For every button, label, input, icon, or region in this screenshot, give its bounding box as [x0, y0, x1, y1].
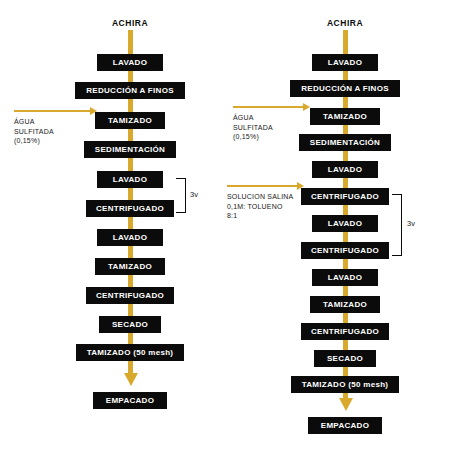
input-annotation-line2: SULFITADA [14, 127, 54, 137]
repeat-bracket [392, 194, 402, 256]
left-flow-arrowhead [124, 373, 138, 386]
process-node[interactable]: TAMIZADO [95, 258, 165, 275]
input-arrow-head [303, 103, 310, 111]
process-node[interactable]: REDUCCIÓN A FINOS [75, 82, 185, 99]
process-node[interactable]: LAVADO [312, 54, 378, 71]
process-node[interactable]: CENTRIFUGADO [301, 323, 389, 340]
process-node[interactable]: SECADO [99, 316, 161, 333]
process-node[interactable]: EMPACADO [308, 417, 382, 434]
input-annotation: SOLUCION SALINA 0,1M: TOLUENO 8:1 [227, 192, 293, 221]
process-node[interactable]: LAVADO [312, 161, 378, 178]
right-process-flow: ACHIRA LAVADO REDUCCIÓN A FINOS TAMIZADO… [215, 0, 455, 459]
input-annotation-line3: 8:1 [227, 211, 293, 221]
input-annotation: ÁGUA SULFITADA (0,15%) [14, 117, 54, 146]
process-node[interactable]: LAVADO [312, 269, 378, 286]
input-annotation-line1: ÁGUA [14, 117, 54, 127]
right-flow-title: ACHIRA [327, 18, 363, 28]
input-annotation-line1: ÁGUA [233, 113, 273, 123]
left-process-flow: ACHIRA LAVADO REDUCCIÓN A FINOS TAMIZADO… [0, 0, 230, 459]
repeat-bracket-label: 3v [190, 190, 198, 199]
process-node[interactable]: TAMIZADO [310, 296, 380, 313]
repeat-bracket-label: 3v [407, 219, 415, 228]
process-node[interactable]: EMPACADO [93, 392, 167, 409]
input-annotation-line2: SULFITADA [233, 123, 273, 133]
input-annotation-line3: (0,15%) [233, 132, 273, 142]
process-node[interactable]: TAMIZADO [310, 108, 380, 125]
process-node[interactable]: TAMIZADO [95, 112, 165, 129]
flowchart-diagram: ACHIRA LAVADO REDUCCIÓN A FINOS TAMIZADO… [0, 0, 455, 459]
process-node[interactable]: SEDIMENTACIÓN [299, 134, 391, 151]
input-arrow-line [227, 185, 299, 187]
process-node[interactable]: TAMIZADO (50 mesh) [76, 344, 184, 361]
process-node[interactable]: SEDIMENTACIÓN [84, 141, 176, 158]
input-arrow-line [14, 110, 92, 112]
input-annotation-line3: (0,15%) [14, 136, 54, 146]
left-flow-title: ACHIRA [112, 18, 148, 28]
process-node[interactable]: LAVADO [312, 215, 378, 232]
process-node[interactable]: TAMIZADO (50 mesh) [291, 376, 399, 393]
input-annotation-line1: SOLUCION SALINA [227, 192, 293, 202]
process-node[interactable]: CENTRIFUGADO [301, 242, 389, 259]
process-node[interactable]: LAVADO [97, 229, 163, 246]
process-node[interactable]: LAVADO [97, 54, 163, 71]
input-annotation: ÁGUA SULFITADA (0,15%) [233, 113, 273, 142]
process-node[interactable]: REDUCCIÓN A FINOS [290, 80, 400, 97]
process-node[interactable]: SECADO [314, 350, 376, 367]
repeat-bracket [176, 178, 186, 213]
process-node[interactable]: LAVADO [97, 171, 163, 188]
process-node[interactable]: CENTRIFUGADO [86, 200, 174, 217]
process-node[interactable]: CENTRIFUGADO [86, 287, 174, 304]
process-node[interactable]: CENTRIFUGADO [301, 188, 389, 205]
right-flow-arrowhead [339, 398, 353, 411]
input-arrow-line [233, 106, 305, 108]
input-annotation-line2: 0,1M: TOLUENO [227, 202, 293, 212]
